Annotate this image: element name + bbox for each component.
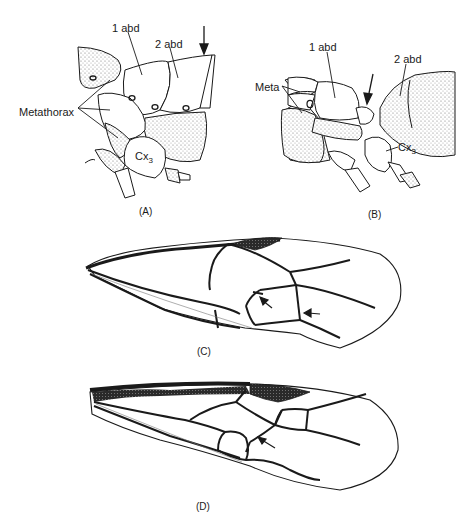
label-1-abd: 1 abd bbox=[112, 22, 140, 34]
pointer-arrow-icon bbox=[200, 26, 208, 54]
panel-c-wing-illustration bbox=[50, 230, 450, 360]
caption-b: (B) bbox=[368, 209, 381, 221]
pointer-arrow-icon bbox=[364, 74, 373, 104]
caption-c: (C) bbox=[197, 346, 211, 358]
label-coxa-subscript: 3 bbox=[148, 156, 152, 165]
panel-a-illustration bbox=[0, 0, 240, 240]
panel-a: 1 abd 2 abd Metathorax Cx3 (A) bbox=[0, 0, 240, 240]
label-coxa-subscript: 3 bbox=[411, 147, 415, 156]
panel-c: (C) bbox=[50, 230, 450, 360]
label-coxa-base: Cx bbox=[135, 150, 148, 162]
label-1-abd: 1 abd bbox=[309, 41, 337, 53]
caption-d: (D) bbox=[196, 501, 210, 513]
panel-b-illustration bbox=[240, 0, 476, 240]
panel-d: (D) bbox=[50, 380, 450, 528]
label-coxa-3: Cx3 bbox=[398, 141, 416, 158]
label-coxa-base: Cx bbox=[398, 141, 411, 153]
panel-b: 1 abd 2 abd Meta Cx3 (B) bbox=[240, 0, 476, 240]
panel-d-wing-illustration bbox=[50, 380, 450, 528]
label-coxa-3: Cx3 bbox=[135, 150, 153, 167]
caption-a: (A) bbox=[139, 206, 152, 218]
label-2-abd: 2 abd bbox=[155, 38, 183, 50]
label-meta: Meta bbox=[255, 81, 279, 93]
label-metathorax: Metathorax bbox=[19, 106, 74, 118]
label-2-abd: 2 abd bbox=[394, 53, 422, 65]
